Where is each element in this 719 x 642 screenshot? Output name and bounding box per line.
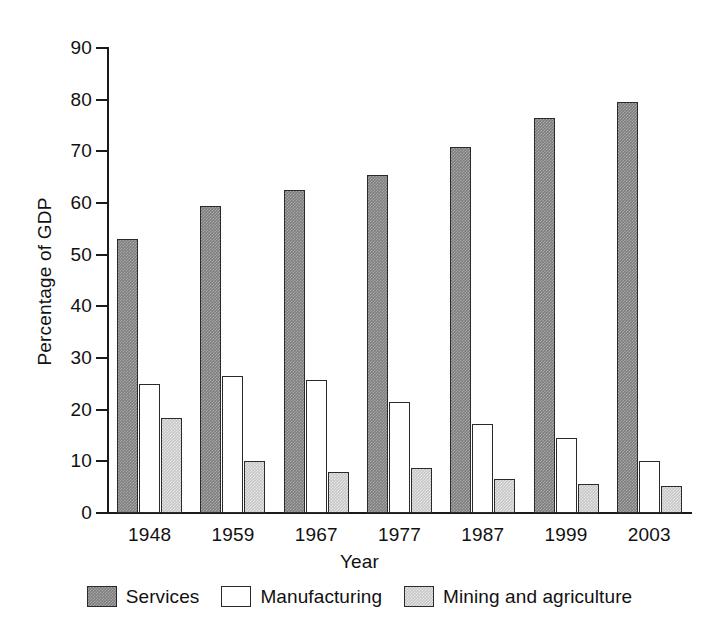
bar-group bbox=[441, 48, 524, 513]
bar-services bbox=[200, 206, 221, 513]
y-axis-tick bbox=[96, 47, 108, 49]
y-axis-tick-label: 70 bbox=[48, 141, 92, 160]
bar-group bbox=[524, 48, 607, 513]
legend-swatch-manufacturing bbox=[221, 586, 251, 607]
bar-manufacturing bbox=[222, 376, 243, 513]
x-axis-title: Year bbox=[0, 552, 719, 571]
bar-group bbox=[191, 48, 274, 513]
legend-swatch-services bbox=[87, 586, 117, 607]
y-axis-tick-label: 60 bbox=[48, 193, 92, 212]
y-axis-tick bbox=[96, 202, 108, 204]
legend-label: Services bbox=[126, 587, 200, 606]
y-axis-tick-label: 0 bbox=[48, 503, 92, 522]
y-axis-tick bbox=[96, 99, 108, 101]
legend-item[interactable]: Manufacturing bbox=[221, 586, 382, 607]
y-axis-tick bbox=[96, 460, 108, 462]
x-axis-tick-label: 1999 bbox=[521, 524, 611, 545]
y-axis-tick bbox=[96, 305, 108, 307]
bar-manufacturing bbox=[639, 461, 660, 513]
bar-services bbox=[617, 102, 638, 513]
y-axis-tick-label: 80 bbox=[48, 90, 92, 109]
gdp-sector-bar-chart: 0102030405060708090 Percentage of GDP 19… bbox=[0, 0, 719, 642]
y-axis-tick-label: 90 bbox=[48, 38, 92, 57]
x-axis-tick-label: 1987 bbox=[438, 524, 528, 545]
y-axis-tick bbox=[96, 409, 108, 411]
y-axis-tick bbox=[96, 254, 108, 256]
bar-mining bbox=[411, 468, 432, 513]
y-axis-tick bbox=[96, 512, 108, 514]
bar-manufacturing bbox=[306, 380, 327, 513]
x-axis-tick-label: 1977 bbox=[355, 524, 445, 545]
bar-mining bbox=[244, 461, 265, 513]
legend-item[interactable]: Services bbox=[87, 586, 200, 607]
bar-services bbox=[284, 190, 305, 513]
y-axis-tick-label: 50 bbox=[48, 245, 92, 264]
bar-mining bbox=[328, 472, 349, 513]
bar-mining bbox=[494, 479, 515, 513]
bar-services bbox=[117, 239, 138, 513]
y-axis-tick bbox=[96, 357, 108, 359]
y-axis-tick bbox=[96, 150, 108, 152]
y-axis-tick-label: 30 bbox=[48, 348, 92, 367]
y-axis-tick-label: 10 bbox=[48, 451, 92, 470]
bar-manufacturing bbox=[472, 424, 493, 513]
y-axis-title: Percentage of GDP bbox=[35, 152, 54, 412]
x-axis-tick-label: 1967 bbox=[271, 524, 361, 545]
bar-manufacturing bbox=[139, 384, 160, 513]
bar-manufacturing bbox=[389, 402, 410, 513]
legend-item[interactable]: Mining and agriculture bbox=[404, 586, 632, 607]
bar-services bbox=[367, 175, 388, 513]
bar-group bbox=[275, 48, 358, 513]
y-axis-tick-label: 20 bbox=[48, 400, 92, 419]
legend-label: Mining and agriculture bbox=[443, 587, 632, 606]
bar-mining bbox=[578, 484, 599, 513]
bar-mining bbox=[161, 418, 182, 513]
chart-legend: ServicesManufacturingMining and agricult… bbox=[0, 586, 719, 607]
x-axis-tick-label: 2003 bbox=[604, 524, 694, 545]
x-axis-tick-label: 1959 bbox=[188, 524, 278, 545]
bar-services bbox=[534, 118, 555, 513]
plot-area bbox=[108, 48, 691, 513]
y-axis-tick-label: 40 bbox=[48, 296, 92, 315]
bar-manufacturing bbox=[556, 438, 577, 513]
bar-group bbox=[608, 48, 691, 513]
bar-services bbox=[450, 147, 471, 513]
x-axis-tick-label: 1948 bbox=[105, 524, 195, 545]
bar-group bbox=[108, 48, 191, 513]
bar-group bbox=[358, 48, 441, 513]
legend-label: Manufacturing bbox=[260, 587, 382, 606]
bar-mining bbox=[661, 486, 682, 513]
legend-swatch-mining bbox=[404, 586, 434, 607]
